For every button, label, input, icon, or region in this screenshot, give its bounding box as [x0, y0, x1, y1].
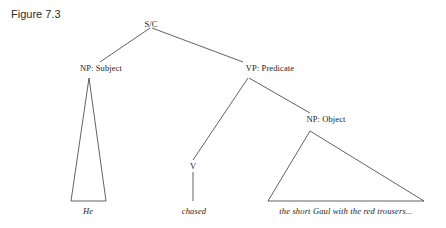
terminal-label-subject: He [83, 206, 93, 216]
node-label-np-object: NP: Object [306, 114, 345, 124]
object-triangle [268, 131, 424, 201]
syntax-tree-graphic [0, 0, 446, 228]
terminal-label-object: the short Gaul with the red trousers... [279, 206, 412, 216]
edge-root-to-subject [100, 28, 150, 62]
edge-vp-to-object [249, 78, 310, 113]
figure-canvas: Figure 7.3 S/C NP: Subject VP: Predicate… [0, 0, 446, 228]
edge-vp-to-v [193, 78, 248, 160]
tree-triangles [71, 78, 424, 201]
subject-triangle [71, 78, 106, 201]
node-label-root: S/C [144, 19, 157, 29]
terminal-label-verb: chased [182, 206, 207, 216]
node-label-v: V [190, 161, 196, 171]
tree-edges [100, 28, 310, 201]
node-label-vp-predicate: VP: Predicate [246, 63, 294, 73]
node-label-np-subject: NP: Subject [80, 63, 122, 73]
edge-root-to-vp [152, 28, 243, 62]
